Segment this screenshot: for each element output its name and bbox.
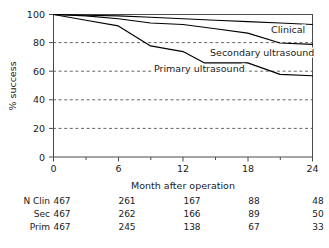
y-tick-label-100: 100 — [27, 9, 45, 20]
risk-cell-primary-12: 138 — [183, 222, 200, 232]
curve-label-primary-ultrasound: Primary ultrasound — [154, 63, 245, 74]
risk-cell-secondary-24: 50 — [312, 209, 324, 219]
risk-cell-clinical-6: 261 — [118, 196, 135, 206]
chart-canvas: 100 80 60 40 20 0 % success 0 6 12 18 24… — [0, 0, 329, 248]
risk-row-label-secondary: Sec — [34, 209, 50, 219]
x-tick-label-18: 18 — [242, 163, 254, 174]
y-axis-title: % success — [7, 61, 18, 110]
x-tick-label-6: 6 — [115, 163, 121, 174]
curve-label-secondary-ultrasound: Secondary ultrasound — [210, 47, 314, 58]
risk-table-row-clinical: N Clin 467 261 167 88 48 — [23, 196, 324, 206]
risk-cell-primary-0: 467 — [53, 222, 70, 232]
chart-figure: 100 80 60 40 20 0 % success 0 6 12 18 24… — [0, 0, 329, 248]
risk-cell-primary-24: 33 — [312, 222, 323, 232]
risk-cell-primary-6: 245 — [118, 222, 135, 232]
x-tick-label-12: 12 — [177, 163, 189, 174]
risk-cell-primary-18: 67 — [248, 222, 259, 232]
risk-table-row-primary: Prim 467 245 138 67 33 — [30, 222, 324, 232]
risk-cell-secondary-18: 89 — [248, 209, 260, 219]
risk-cell-secondary-0: 467 — [53, 209, 70, 219]
curve-label-clinical: Clinical — [271, 24, 305, 35]
plot-frame — [53, 15, 313, 158]
risk-row-label-primary: Prim — [30, 222, 50, 232]
risk-cell-clinical-24: 48 — [312, 196, 324, 206]
x-tick-label-0: 0 — [50, 163, 56, 174]
risk-table-row-secondary: Sec 467 262 166 89 50 — [34, 209, 324, 219]
y-tick-label-80: 80 — [33, 37, 45, 48]
y-tick-label-0: 0 — [39, 152, 45, 163]
x-axis: 0 6 12 18 24 Month after operation — [50, 157, 318, 191]
y-tick-label-20: 20 — [33, 123, 45, 134]
risk-cell-clinical-12: 167 — [183, 196, 200, 206]
risk-cell-secondary-12: 166 — [183, 209, 200, 219]
y-tick-label-60: 60 — [33, 66, 45, 77]
y-axis: 100 80 60 40 20 0 % success — [7, 9, 54, 163]
y-tick-label-40: 40 — [33, 94, 45, 105]
risk-row-label-clinical: N Clin — [23, 196, 50, 206]
risk-cell-secondary-6: 262 — [118, 209, 135, 219]
x-tick-label-24: 24 — [306, 163, 318, 174]
risk-cell-clinical-0: 467 — [53, 196, 70, 206]
risk-cell-clinical-18: 88 — [248, 196, 260, 206]
risk-table: N Clin 467 261 167 88 48 Sec 467 262 166… — [23, 196, 324, 232]
x-axis-title: Month after operation — [131, 180, 235, 191]
